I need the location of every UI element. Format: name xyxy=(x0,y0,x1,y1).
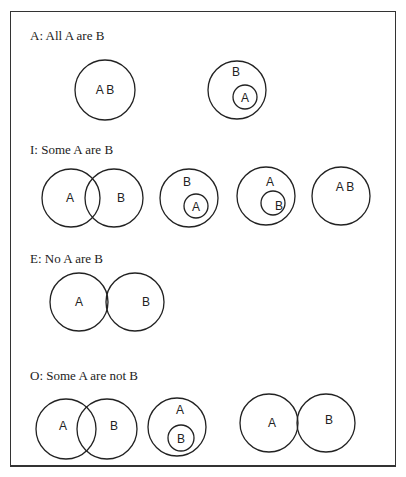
set-label: A xyxy=(66,191,74,205)
set-circle xyxy=(312,167,370,225)
venn-diagram: AB xyxy=(36,399,137,459)
section-i: I: Some A are BABBAABA B xyxy=(30,142,370,227)
set-label: A xyxy=(192,200,200,214)
venn-diagrams-canvas: A: All A are BA BBAI: Some A are BABBAAB… xyxy=(0,0,406,477)
set-circle xyxy=(85,169,143,227)
venn-diagram: AB xyxy=(148,398,206,456)
venn-diagram: BA xyxy=(160,169,218,227)
venn-diagram: AB xyxy=(42,169,143,227)
set-label: A xyxy=(241,91,249,105)
section-title: O: Some A are not B xyxy=(30,368,138,383)
section-a: A: All A are BA BBA xyxy=(30,28,266,120)
section-title: E: No A are B xyxy=(30,251,103,266)
venn-diagram: BA xyxy=(208,61,266,119)
set-label: A xyxy=(176,403,184,417)
set-label: B xyxy=(325,413,333,427)
set-label: A B xyxy=(336,180,355,194)
venn-diagram: AB xyxy=(240,394,355,452)
set-label: A xyxy=(75,295,83,309)
set-label: A xyxy=(266,175,274,189)
set-label: B xyxy=(117,191,125,205)
set-circle xyxy=(106,273,164,331)
set-label: B xyxy=(110,419,118,433)
set-label: A xyxy=(268,416,276,430)
venn-diagram: AB xyxy=(237,167,295,225)
set-label: B xyxy=(183,175,191,189)
venn-diagram: AB xyxy=(50,273,164,331)
section-o: O: Some A are not BABABAB xyxy=(30,368,355,459)
section-title: A: All A are B xyxy=(30,28,105,43)
section-title: I: Some A are B xyxy=(30,142,113,157)
set-label: B xyxy=(177,432,185,446)
set-label: B xyxy=(232,65,240,79)
set-circle xyxy=(77,399,137,459)
venn-diagram: A B xyxy=(312,167,370,225)
set-label: A B xyxy=(96,83,115,97)
section-e: E: No A are BAB xyxy=(30,251,164,331)
set-label: B xyxy=(142,295,150,309)
set-label: A xyxy=(59,419,67,433)
venn-diagram: A B xyxy=(75,60,135,120)
set-label: B xyxy=(275,199,283,213)
